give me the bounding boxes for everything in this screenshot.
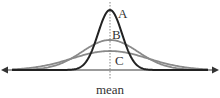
mean-label: mean xyxy=(96,82,125,97)
label-b: B xyxy=(112,27,121,42)
label-c: C xyxy=(115,53,124,68)
right-arrow-icon xyxy=(212,67,219,74)
normal-curves-diagram: A B C mean xyxy=(0,0,220,98)
label-a: A xyxy=(118,6,128,21)
left-arrow-icon xyxy=(1,67,8,74)
